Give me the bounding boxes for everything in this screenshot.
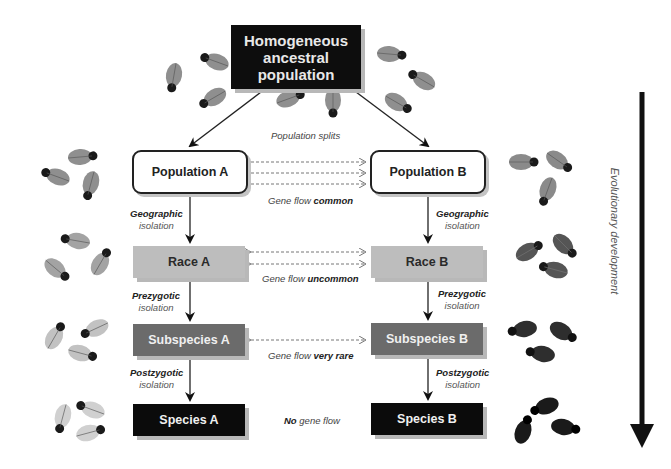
- isolation-label-a-prezygotic: Prezygotic isolation: [132, 290, 180, 314]
- beetle-group-population-a: [39, 148, 102, 202]
- root-line-1: Homogeneous: [244, 32, 348, 49]
- evolutionary-development-label: Evolutionary development: [609, 146, 621, 316]
- split-arrow-a: [190, 89, 265, 146]
- isolation-label-a-geographic: Geographic isolation: [130, 208, 183, 232]
- subspecies-a-box: Subspecies A: [133, 324, 245, 356]
- population-a-box: Population A: [132, 150, 248, 194]
- beetle-group-race-b: [513, 230, 581, 281]
- isolation-label-b-prezygotic: Prezygotic isolation: [438, 288, 486, 312]
- population-b-box: Population B: [370, 150, 486, 194]
- gene-flow-common-label: Gene flow common: [268, 195, 353, 206]
- gene-flow-very-rare-label: Gene flow very rare: [268, 350, 354, 361]
- ancestral-population-box: Homogeneous ancestral population: [231, 25, 361, 89]
- beetle-group-population-b: [509, 147, 576, 209]
- isolation-label-b-geographic: Geographic isolation: [436, 208, 489, 232]
- isolation-label-a-postzygotic: Postzygotic isolation: [130, 367, 183, 391]
- race-b-box: Race B: [371, 246, 483, 278]
- population-splits-label: Population splits: [271, 130, 340, 141]
- race-a-box: Race A: [133, 246, 245, 278]
- speciation-diagram: Homogeneous ancestral population Populat…: [0, 0, 671, 469]
- split-arrow-b: [352, 89, 428, 146]
- beetle-group-species-a: [51, 396, 107, 443]
- root-line-2: ancestral: [244, 49, 348, 66]
- beetle-group-subspecies-a: [41, 316, 111, 366]
- beetle-group-subspecies-b: [506, 318, 580, 364]
- species-a-box: Species A: [133, 404, 245, 436]
- gene-flow-uncommon-label: Gene flow uncommon: [262, 273, 359, 284]
- subspecies-b-box: Subspecies B: [371, 323, 483, 355]
- species-b-box: Species B: [371, 403, 483, 435]
- root-line-3: population: [244, 66, 348, 83]
- no-gene-flow-label: No gene flow: [284, 415, 340, 426]
- isolation-label-b-postzygotic: Postzygotic isolation: [436, 367, 489, 391]
- evolution-arrow-head: [630, 424, 654, 448]
- beetle-group-race-a: [41, 230, 116, 285]
- beetle-group-species-b: [511, 394, 581, 446]
